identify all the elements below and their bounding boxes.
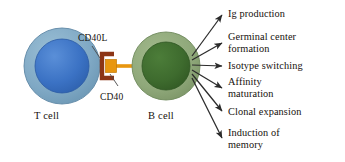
diagram-canvas — [0, 0, 345, 162]
b-cell-label: B cell — [148, 110, 174, 121]
outcome-label-germinal-center-formation: Germinal center formation — [228, 31, 296, 54]
t-cell-nucleus — [35, 39, 89, 93]
outcome-label-clonal-expansion: Clonal expansion — [228, 106, 301, 118]
outcome-label-induction-of-memory: Induction of memory — [228, 127, 280, 150]
cd40l-ligand-icon — [106, 60, 117, 73]
b-cell-nucleus — [142, 42, 190, 90]
outcome-label-affinity-maturation: Affinity maturation — [228, 76, 274, 99]
cd40-label: CD40 — [100, 92, 124, 102]
outcome-label-ig-production: Ig production — [228, 8, 285, 20]
arrow-ig-production — [192, 15, 222, 56]
b-cell-body — [132, 32, 200, 100]
cd40l-label: CD40L — [78, 33, 108, 43]
outcome-label-isotype-switching: Isotype switching — [228, 60, 303, 72]
t-cell-label: T cell — [34, 110, 59, 121]
cd40-signaling-diagram: T cell B cell CD40L CD40 Ig production G… — [0, 0, 345, 162]
arrow-induction-memory — [192, 78, 222, 138]
